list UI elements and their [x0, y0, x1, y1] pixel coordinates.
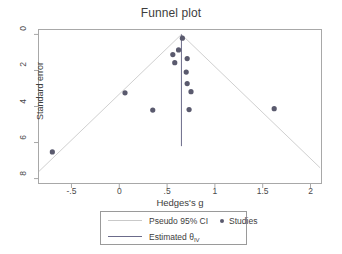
study-point [185, 81, 190, 86]
x-tick-label: .5 [154, 186, 180, 196]
study-point [150, 108, 155, 113]
y-tick-label: 4 [18, 99, 28, 113]
legend-label-pseudo-ci: Pseudo 95% CI [149, 216, 208, 226]
study-point [122, 90, 127, 95]
legend-label-estimated: Estimated θIV [149, 232, 200, 242]
y-axis-label: Standard error [35, 31, 45, 151]
study-point [50, 149, 55, 154]
x-axis-label: Hedges's g [38, 197, 322, 208]
study-point [184, 69, 189, 74]
pseudo-ci-line-right [181, 34, 320, 167]
studies-marker-icon [220, 219, 224, 223]
study-point [176, 47, 181, 52]
funnel-plot-figure: Funnel plot -.50.511.52 02468 Standard e… [0, 0, 342, 254]
x-tick-label: -.5 [58, 186, 84, 196]
plot-area [38, 29, 322, 184]
x-tick-label: 1.5 [250, 186, 276, 196]
study-point [180, 36, 185, 41]
legend: Pseudo 95% CI Studies Estimated θIV [100, 211, 247, 245]
legend-estimated-theta: Estimated θ [149, 232, 194, 242]
pseudo-ci-lines [39, 34, 320, 171]
y-tick-label: 6 [18, 135, 28, 149]
legend-row-estimated: Estimated θIV [101, 228, 246, 245]
pseudo-ci-key [101, 220, 149, 221]
y-tick-label: 8 [18, 171, 28, 185]
pseudo-ci-line-swatch [108, 220, 142, 221]
study-point [186, 107, 191, 112]
study-point [170, 52, 175, 57]
y-tick-label: 2 [18, 62, 28, 76]
x-tick-label: 2 [298, 186, 324, 196]
x-tick-label: 0 [106, 186, 132, 196]
study-points [50, 36, 277, 155]
estimate-line-swatch [108, 236, 142, 237]
pseudo-ci-line-left [39, 34, 181, 171]
legend-row-pseudo-ci: Pseudo 95% CI Studies [101, 212, 246, 229]
x-tick-label: 1 [202, 186, 228, 196]
estimate-key [101, 236, 149, 237]
y-tick-label: 0 [18, 26, 28, 40]
study-point [172, 60, 177, 65]
legend-studies-entry: Studies [220, 216, 257, 226]
axis-ticks [34, 34, 311, 188]
study-point [188, 89, 193, 94]
study-point [185, 56, 190, 61]
chart-title: Funnel plot [0, 6, 342, 20]
legend-label-studies: Studies [229, 216, 257, 226]
study-point [272, 106, 277, 111]
legend-estimated-subscript: IV [194, 237, 200, 243]
